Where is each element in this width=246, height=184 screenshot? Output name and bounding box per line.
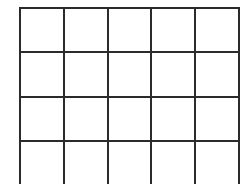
grid-row xyxy=(20,8,239,52)
grid-cell xyxy=(151,141,195,184)
grid-row xyxy=(20,141,239,184)
grid-cell xyxy=(151,52,195,96)
canvas xyxy=(0,0,246,184)
grid-cell xyxy=(108,141,152,184)
grid-cell xyxy=(20,8,64,52)
grid-cell xyxy=(195,52,239,96)
grid-body xyxy=(20,8,239,184)
grid-cell xyxy=(20,97,64,141)
grid-cell xyxy=(195,141,239,184)
grid-cell xyxy=(195,97,239,141)
grid-cell xyxy=(64,141,108,184)
grid-cell xyxy=(20,141,64,184)
grid-cell xyxy=(151,97,195,141)
grid-cell xyxy=(64,8,108,52)
grid-cell xyxy=(64,97,108,141)
grid-cell xyxy=(195,8,239,52)
grid-row xyxy=(20,52,239,96)
grid-cell xyxy=(108,97,152,141)
grid-cell xyxy=(64,52,108,96)
grid-row xyxy=(20,97,239,141)
grid-cell xyxy=(108,52,152,96)
grid-cell xyxy=(108,8,152,52)
grid-cell xyxy=(151,8,195,52)
grid-cell xyxy=(20,52,64,96)
grid-table xyxy=(19,7,240,184)
